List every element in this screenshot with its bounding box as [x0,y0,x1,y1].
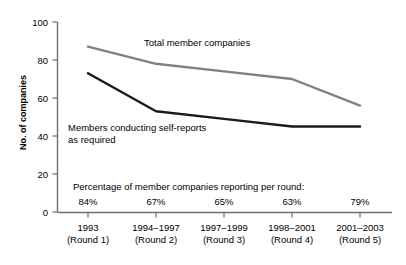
y-tick-label-40: 40 [22,131,48,142]
chart-figure: No. of companies 100 80 60 40 20 0 Total… [0,0,406,265]
percentage-caption: Percentage of member companies reporting… [73,181,304,192]
series-label-line2: as required [68,134,206,146]
percentage-value-round-5: 79% [330,196,390,207]
x-tick-marks [88,213,360,218]
x-tick-label-round-5-round: (Round 5) [320,234,400,246]
y-tick-label-0: 0 [22,207,48,218]
y-tick-label-60: 60 [22,93,48,104]
series-label-total-member-companies: Total member companies [144,37,250,48]
percentage-value-round-2: 67% [126,196,186,207]
y-tick-label-80: 80 [22,55,48,66]
line-members-self-reports [88,73,360,126]
x-tick-label-round-5-period: 2001–2003 [320,222,400,234]
y-tick-label-100: 100 [22,17,48,28]
y-tick-label-20: 20 [22,169,48,180]
percentage-value-round-3: 65% [194,196,254,207]
y-tick-marks [53,22,58,212]
percentage-value-round-4: 63% [262,196,322,207]
series-label-line1: Members conducting self-reports [68,122,206,134]
x-tick-label-round-5: 2001–2003 (Round 5) [320,222,400,246]
percentage-value-round-1: 84% [58,196,118,207]
series-label-members-self-reports: Members conducting self-reports as requi… [68,122,206,146]
